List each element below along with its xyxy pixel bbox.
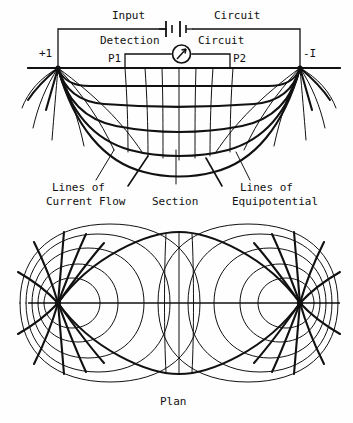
figure-drawing: .thick { fill:none; stroke:#111; stroke-…: [0, 0, 353, 423]
input-label: Input: [112, 10, 145, 22]
plan-electrode-right: [297, 300, 303, 306]
resistivity-field-map-figure: .thick { fill:none; stroke:#111; stroke-…: [0, 0, 353, 423]
electrode-label-p1: P1: [108, 53, 121, 65]
plan-electrode-left: [55, 300, 61, 306]
current-flow-label-line2: Current Flow: [46, 196, 125, 208]
equipotential-label-line2: Equipotential: [232, 196, 318, 208]
electrode-label-right-current: -I: [303, 48, 316, 60]
section-label: Section: [152, 196, 198, 208]
input-circuit-label: Circuit: [214, 10, 260, 22]
galvanometer-icon: [173, 45, 191, 63]
section-electrode-left: [55, 65, 60, 70]
plan-label: Plan: [160, 396, 187, 408]
equipotential-label-line1: Lines of: [240, 182, 293, 194]
current-flow-label-line1: Lines of: [52, 182, 105, 194]
electrode-label-left-current: +1: [39, 48, 52, 60]
section-electrode-right: [297, 65, 302, 70]
detection-label: Detection: [100, 35, 160, 47]
battery-icon: [159, 21, 193, 37]
detection-circuit-label: Circuit: [198, 35, 244, 47]
electrode-label-p2: P2: [233, 53, 246, 65]
